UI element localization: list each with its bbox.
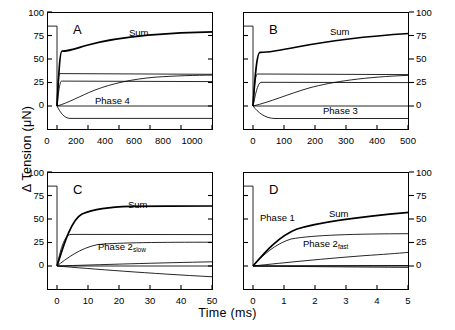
panel-d-curves: [225, 160, 455, 330]
panel-a: A 100 75 50 25 0 0 200 400 600 800 1000 …: [0, 0, 225, 160]
panel-c: C 100 75 50 25 0 0 10 20 30 40 50 Sum Ph…: [0, 160, 225, 330]
panel-d: D 100 75 50 25 0 0 1 2 3 4 5 Phase 1 Sum…: [225, 160, 455, 330]
figure-container: Δ Tension (μN) Time (ms) A 100 75 50 25 …: [0, 0, 455, 330]
panel-a-curves: [0, 0, 225, 160]
panel-b-curves: [225, 0, 455, 160]
panel-b: B 100 75 50 25 0 0 100 200 300 400 500 S…: [225, 0, 455, 160]
panel-c-curves: [0, 160, 225, 330]
